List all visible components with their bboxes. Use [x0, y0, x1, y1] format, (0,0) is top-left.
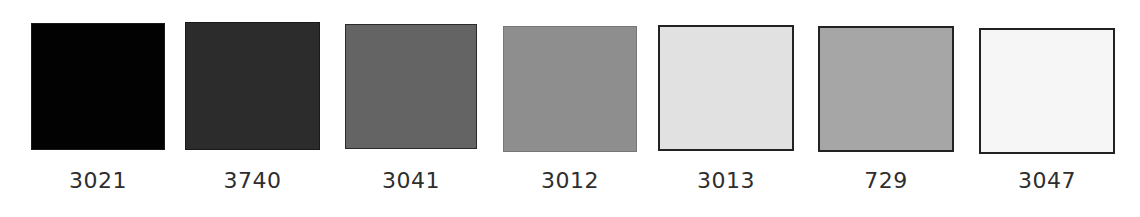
swatch-code-label: 3041: [345, 168, 477, 193]
color-swatch: [345, 24, 477, 149]
swatch-code-label: 3740: [185, 168, 320, 193]
color-swatch: [658, 25, 794, 151]
swatch-code-label: 3012: [503, 168, 637, 193]
swatch-code-label: 3021: [31, 168, 165, 193]
swatch-code-label: 729: [818, 168, 954, 193]
color-swatch: [31, 23, 165, 150]
color-swatch: [979, 28, 1115, 154]
swatch-code-label: 3013: [658, 168, 794, 193]
color-swatch: [503, 26, 637, 152]
color-swatch: [818, 26, 954, 152]
swatch-code-label: 3047: [979, 168, 1115, 193]
color-swatch: [185, 22, 320, 150]
